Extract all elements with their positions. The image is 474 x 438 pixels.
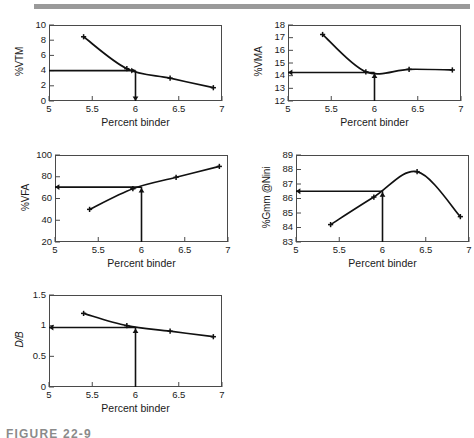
data-point-marker (371, 194, 376, 199)
data-point-marker (81, 311, 86, 316)
y-tick-label: 88 (263, 163, 293, 174)
plot-area-vma (288, 25, 461, 101)
x-tick-label: 6.5 (405, 103, 431, 114)
data-point-marker (211, 85, 216, 90)
y-tick-label: 83 (263, 236, 293, 247)
y-tick-label: 84 (263, 221, 293, 232)
x-axis-label-vma: Percent binder (258, 116, 474, 128)
y-tick-label: 6 (16, 49, 46, 60)
data-point-marker (363, 69, 368, 74)
y-axis-label-vfa: %VFA (20, 154, 31, 241)
y-tick-label: 85 (263, 207, 293, 218)
y-axis-label-db: D/B (14, 294, 25, 386)
x-tick-label: 6.5 (172, 244, 198, 255)
y-tick-label: 15 (255, 57, 285, 68)
data-point-marker (407, 67, 412, 72)
x-tick-label: 6 (123, 389, 149, 400)
y-axis-label-vma: %VMA (253, 24, 264, 100)
y-tick-label: 12 (255, 95, 285, 106)
x-tick-label: 6 (370, 244, 396, 255)
x-axis-label-db: Percent binder (19, 402, 252, 414)
plot-graphics-vma (0, 0, 474, 438)
y-tick-label: 40 (22, 214, 52, 225)
data-point-marker (415, 169, 420, 174)
data-point-marker (130, 186, 135, 191)
chart-db: 00.511.555.566.57D/BPercent binder (0, 0, 474, 438)
y-tick-label: 0 (16, 95, 46, 106)
y-tick-label: 2 (16, 79, 46, 90)
data-point-marker (124, 323, 129, 328)
x-tick-label: 5.5 (79, 389, 105, 400)
y-tick-label: 17 (255, 31, 285, 42)
y-tick-label: 89 (263, 149, 293, 160)
chart-vma: 1213141516171855.566.57%VMAPercent binde… (0, 0, 474, 438)
y-tick-label: 10 (16, 19, 46, 30)
y-tick-label: 18 (255, 19, 285, 30)
design-value-annotation-vtm (49, 68, 138, 101)
y-tick-label: 87 (263, 178, 293, 189)
x-tick-label: 7 (215, 244, 241, 255)
plot-graphics-vfa (0, 0, 474, 438)
plot-area-vtm (49, 25, 222, 101)
plot-graphics-db (0, 0, 474, 438)
y-tick-label: 4 (16, 64, 46, 75)
data-point-marker (168, 76, 173, 81)
y-tick-label: 1.5 (16, 289, 46, 300)
x-tick-label: 7 (209, 389, 235, 400)
x-tick-label: 7 (448, 103, 474, 114)
data-curve-db (84, 313, 214, 336)
x-axis-label-vtm: Percent binder (19, 116, 252, 128)
x-axis-label-vfa: Percent binder (25, 257, 258, 269)
y-tick-label: 0.5 (16, 350, 46, 361)
x-tick-label: 5.5 (326, 244, 352, 255)
x-tick-label: 5 (36, 103, 62, 114)
x-tick-label: 6.5 (166, 103, 192, 114)
x-axis-label-gmm-nini: Percent binder (266, 257, 474, 269)
x-tick-label: 5 (283, 244, 309, 255)
x-tick-label: 5 (275, 103, 301, 114)
y-tick-label: 1 (16, 319, 46, 330)
plot-area-db (49, 295, 222, 387)
chart-gmm-nini: 8384858687888955.566.57%Gmm @NiniPercent… (0, 0, 474, 438)
x-tick-label: 7 (209, 103, 235, 114)
y-tick-label: 13 (255, 82, 285, 93)
y-tick-label: 80 (22, 170, 52, 181)
plot-area-vfa (55, 155, 228, 242)
data-point-marker (328, 222, 333, 227)
chart-vtm: 024681055.566.57%VTMPercent binder (0, 0, 474, 438)
x-tick-label: 5 (42, 244, 68, 255)
y-tick-label: 16 (255, 44, 285, 55)
figure-caption: FIGURE 22-9 (6, 427, 92, 438)
y-tick-label: 60 (22, 192, 52, 203)
y-tick-label: 20 (22, 236, 52, 247)
design-value-annotation-vma (288, 70, 377, 101)
plot-graphics-gmm-nini (0, 0, 474, 438)
plot-area-gmm-nini (296, 155, 469, 242)
x-tick-label: 6 (129, 244, 155, 255)
data-point-marker (217, 164, 222, 169)
data-curve-vtm (84, 37, 214, 88)
y-axis-label-vtm: %VTM (14, 24, 25, 100)
x-tick-label: 7 (456, 244, 474, 255)
y-axis-label-gmm-nini: %Gmm @Nini (261, 154, 272, 241)
chart-vfa: 2040608010055.566.57%VFAPercent binder (0, 0, 474, 438)
x-tick-label: 5.5 (79, 103, 105, 114)
design-value-annotation-db (49, 325, 138, 387)
x-tick-label: 6.5 (166, 389, 192, 400)
x-tick-label: 6 (123, 103, 149, 114)
data-point-marker (124, 66, 129, 71)
data-point-marker (174, 175, 179, 180)
x-tick-label: 6.5 (413, 244, 439, 255)
top-divider-rule (34, 4, 470, 9)
data-point-marker (211, 334, 216, 339)
y-tick-label: 86 (263, 192, 293, 203)
data-curve-vfa (90, 166, 220, 209)
design-value-annotation-vfa (55, 184, 144, 242)
data-point-marker (87, 207, 92, 212)
data-curve-vma (323, 35, 453, 74)
data-point-marker (168, 329, 173, 334)
design-value-annotation-gmm-nini (296, 188, 385, 242)
data-point-marker (81, 34, 86, 39)
y-tick-label: 14 (255, 69, 285, 80)
x-tick-label: 5.5 (318, 103, 344, 114)
